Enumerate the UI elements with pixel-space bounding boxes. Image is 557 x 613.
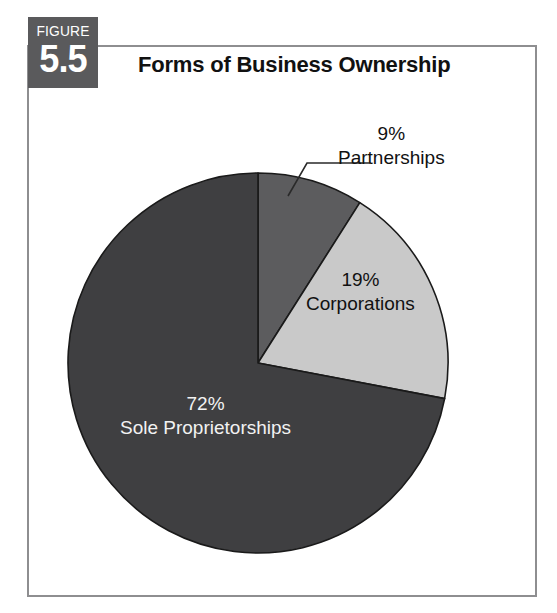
page-title: Forms of Business Ownership <box>138 52 450 78</box>
figure-frame <box>27 45 537 597</box>
figure-badge-number: 5.5 <box>30 37 97 81</box>
figure-number-badge: FIGURE 5.5 <box>28 17 98 88</box>
